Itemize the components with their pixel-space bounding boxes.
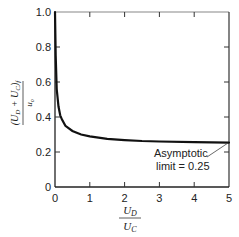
y-tick-label: 0.6 (36, 76, 51, 88)
svg-text:uo: uo (24, 99, 35, 107)
y-tick-label: 1.0 (36, 6, 51, 18)
x-tick-label: 3 (156, 192, 162, 204)
y-ticks (55, 47, 229, 152)
x-tick-labels: 0 1 2 3 4 5 (52, 192, 232, 204)
x-tick-label: 2 (122, 192, 128, 204)
ylabel-part: + U (9, 90, 20, 110)
y-axis-label: (UD + UC)f uo (9, 80, 35, 126)
y-tick-label: 0.4 (36, 111, 51, 123)
x-tick-label: 4 (191, 192, 197, 204)
y-tick-label: 0 (45, 181, 51, 193)
chart: 0 1 2 3 4 5 0 0.2 0.4 0.6 0.8 1.0 Asympt… (0, 0, 239, 237)
x-tick-label: 0 (52, 192, 58, 204)
y-tick-label: 0.2 (36, 146, 51, 158)
asymptote-annotation: Asymptotic limit = 0.25 (154, 143, 228, 172)
y-tick-label: 0.8 (36, 41, 51, 53)
annotation-line-1: Asymptotic (154, 147, 208, 159)
svg-text:(UD + UC)f: (UD + UC)f (9, 80, 22, 126)
annotation-leader-line (207, 143, 228, 157)
x-tick-label: 5 (226, 192, 232, 204)
data-curve (55, 12, 229, 143)
ylabel-den-sub: o (29, 99, 35, 102)
x-tick-label: 1 (87, 192, 93, 204)
xlabel-den-sub: C (131, 225, 137, 234)
ylabel-part: f (14, 80, 22, 83)
x-axis-label: UD UC (119, 204, 141, 234)
svg-text:UC: UC (123, 220, 137, 234)
xlabel-num-sub: D (130, 209, 137, 218)
y-tick-labels: 0 0.2 0.4 0.6 0.8 1.0 (36, 6, 51, 193)
svg-text:UD: UD (123, 204, 137, 218)
annotation-line-2: limit = 0.25 (156, 160, 210, 172)
